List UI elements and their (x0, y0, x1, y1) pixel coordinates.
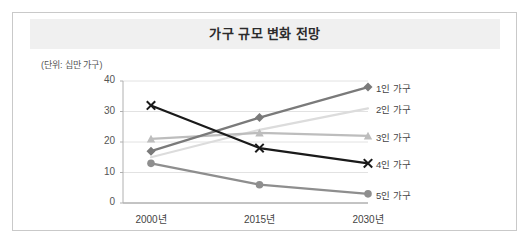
y-axis-tick-label: 20 (89, 135, 115, 146)
data-point-marker (256, 181, 264, 189)
series-3 (147, 129, 372, 143)
data-point-marker (364, 190, 372, 198)
x-axis-tick-label: 2000년 (116, 211, 186, 226)
x-axis-tick-label: 2030년 (333, 211, 403, 226)
legend-item-1: 1인 가구 (376, 81, 411, 95)
series-1 (147, 83, 373, 156)
chart-card: 가구 규모 변화 전망 (단위: 십만 가구) 010203040 2000년2… (12, 12, 517, 231)
data-point-marker (147, 160, 155, 168)
y-axis-tick-label: 0 (89, 196, 115, 207)
data-point-marker (255, 113, 264, 122)
data-point-marker (364, 83, 373, 92)
series-5 (147, 160, 372, 198)
legend-item-5: 5인 가구 (376, 188, 411, 202)
legend-item-2: 2인 가구 (376, 102, 411, 116)
legend-item-4: 4인 가구 (376, 157, 411, 171)
plot-area: 010203040 2000년2015년2030년 1인 가구2인 가구3인 가… (13, 13, 518, 232)
y-axis-tick-label: 40 (89, 74, 115, 85)
y-axis-tick-label: 30 (89, 105, 115, 116)
legend-item-3: 3인 가구 (376, 130, 411, 144)
data-point-marker (147, 147, 156, 156)
y-axis-tick-label: 10 (89, 166, 115, 177)
x-axis-tick-label: 2015년 (225, 211, 295, 226)
